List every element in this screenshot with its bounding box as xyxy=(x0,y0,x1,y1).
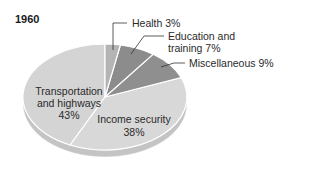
label-miscellaneous: Miscellaneous 9% xyxy=(189,57,274,69)
label-transportation-line1: Transportation xyxy=(28,85,110,97)
label-health: Health 3% xyxy=(132,17,180,29)
label-income-pct: 38% xyxy=(96,126,172,138)
label-education-line1: Education and xyxy=(168,30,235,42)
label-transportation-line2: and highways xyxy=(28,97,110,109)
label-education-line2: training 7% xyxy=(168,42,221,54)
label-income-line1: Income security xyxy=(96,113,172,125)
